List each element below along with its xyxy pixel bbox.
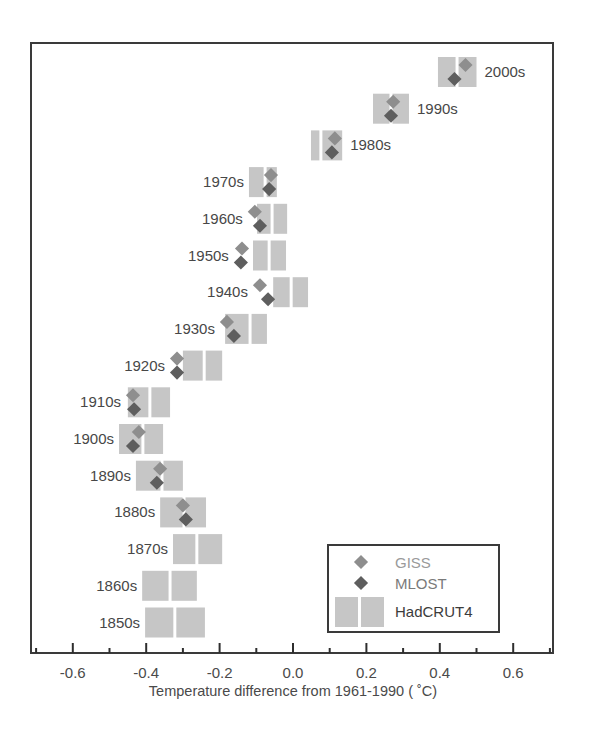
decade-row: 1980s xyxy=(311,130,391,160)
decade-row: 1990s xyxy=(373,94,458,124)
decade-label: 1910s xyxy=(80,393,121,410)
decade-row: 1940s xyxy=(207,277,308,307)
decade-label: 1870s xyxy=(127,540,168,557)
decade-row: 1860s xyxy=(96,571,197,601)
x-tick-label: 0.6 xyxy=(503,664,524,681)
x-tick-label: 0.4 xyxy=(429,664,450,681)
decade-label: 1930s xyxy=(174,320,215,337)
decade-label: 1920s xyxy=(124,357,165,374)
x-tick-label: 0.2 xyxy=(356,664,377,681)
hadcrut4-uncertainty-box xyxy=(163,461,182,491)
hadcrut4-uncertainty-box xyxy=(144,424,163,454)
mlost-diamond-marker xyxy=(261,292,275,306)
x-axis: -0.6-0.4-0.20.00.20.40.6 xyxy=(36,643,550,681)
hadcrut4-uncertainty-box xyxy=(160,497,182,527)
decade-row: 2000s xyxy=(438,57,525,87)
decade-row: 1890s xyxy=(90,461,183,491)
decade-row: 1870s xyxy=(127,534,222,564)
hadcrut4-uncertainty-box xyxy=(252,314,267,344)
decade-label: 2000s xyxy=(485,63,526,80)
decade-row: 1970s xyxy=(203,167,278,197)
hadcrut4-uncertainty-box xyxy=(151,387,170,417)
hadcrut4-uncertainty-box xyxy=(311,130,319,160)
decade-label: 1890s xyxy=(90,467,131,484)
hadcrut4-uncertainty-box xyxy=(249,167,264,197)
legend-mlost-label: MLOST xyxy=(395,575,447,592)
x-tick-label: -0.2 xyxy=(207,664,233,681)
x-tick-label: -0.6 xyxy=(60,664,86,681)
giss-diamond-marker xyxy=(170,352,184,366)
hadcrut4-uncertainty-box xyxy=(172,571,197,601)
hadcrut4-uncertainty-box xyxy=(176,608,205,638)
hadcrut4-uncertainty-box xyxy=(273,277,289,307)
decade-label: 1980s xyxy=(350,136,391,153)
giss-diamond-marker xyxy=(253,278,267,292)
hadcrut4-uncertainty-box xyxy=(253,241,268,271)
decade-row: 1950s xyxy=(188,241,286,271)
hadcrut4-uncertainty-box xyxy=(206,351,222,381)
x-axis-title: Temperature difference from 1961-1990 ( … xyxy=(149,683,437,699)
decade-label: 1970s xyxy=(203,173,244,190)
decade-row: 1880s xyxy=(114,497,206,527)
decade-row: 1900s xyxy=(73,424,163,454)
hadcrut4-uncertainty-box xyxy=(198,534,222,564)
x-tick-label: 0.0 xyxy=(283,664,304,681)
decade-label: 1960s xyxy=(202,210,243,227)
decade-row: 1960s xyxy=(202,204,287,234)
decade-row: 1850s xyxy=(99,608,205,638)
decade-row: 1920s xyxy=(124,351,222,381)
decade-label: 1940s xyxy=(207,283,248,300)
decade-label: 1850s xyxy=(99,614,140,631)
decadal-temperature-chart: 2000s1990s1980s1970s1960s1950s1940s1930s… xyxy=(0,0,589,738)
hadcrut4-uncertainty-box xyxy=(145,608,173,638)
hadcrut4-uncertainty-box xyxy=(271,241,286,271)
hadcrut4-uncertainty-box xyxy=(274,204,288,234)
decade-row: 1910s xyxy=(80,387,170,417)
hadcrut4-uncertainty-box xyxy=(183,351,203,381)
mlost-diamond-marker xyxy=(170,366,184,380)
x-tick-label: -0.4 xyxy=(133,664,159,681)
giss-diamond-marker xyxy=(235,241,249,255)
legend-hadcrut4-box-icon xyxy=(361,597,384,627)
decade-row: 1930s xyxy=(174,314,267,344)
decade-label: 1860s xyxy=(96,577,137,594)
hadcrut4-uncertainty-box xyxy=(293,277,308,307)
decade-label: 1900s xyxy=(73,430,114,447)
legend-hadcrut4-box-icon xyxy=(335,597,358,627)
decade-label: 1950s xyxy=(188,247,229,264)
decade-label: 1880s xyxy=(114,503,155,520)
mlost-diamond-marker xyxy=(234,255,248,269)
hadcrut4-uncertainty-box xyxy=(373,94,389,124)
legend-hadcrut4-label: HadCRUT4 xyxy=(395,603,473,620)
legend: GISS MLOST HadCRUT4 xyxy=(328,545,499,632)
decade-label: 1990s xyxy=(417,100,458,117)
legend-giss-label: GISS xyxy=(395,554,431,571)
hadcrut4-uncertainty-box xyxy=(173,534,195,564)
hadcrut4-uncertainty-box xyxy=(142,571,168,601)
